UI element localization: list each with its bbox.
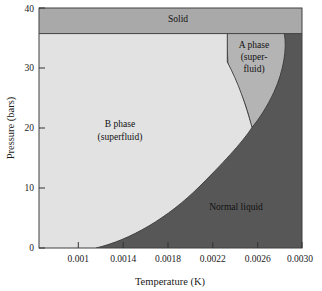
region-label-a-phase-line1: A phase bbox=[239, 40, 269, 50]
region-label-b-phase-line1: B phase bbox=[105, 119, 135, 129]
region-label-a-phase-line2: (super- bbox=[241, 52, 268, 63]
x-axis-tick-labels: 0.001 0.0014 0.0018 0.0022 0.0026 0.0030 bbox=[68, 254, 314, 264]
x-tick-label-5: 0.0026 bbox=[245, 254, 271, 264]
region-label-b-phase-line2: (superfluid) bbox=[98, 132, 143, 143]
x-axis-title: Temperature (K) bbox=[135, 276, 206, 288]
y-axis-tick-labels: 0 10 20 30 40 bbox=[25, 4, 35, 253]
y-axis-title: Pressure (bars) bbox=[5, 96, 17, 159]
y-tick-label-40: 40 bbox=[25, 4, 35, 14]
region-label-normal-liquid: Normal liquid bbox=[209, 202, 263, 212]
phase-diagram-figure: 0 10 20 30 40 0.001 0.0014 0.0018 0.0022… bbox=[0, 0, 322, 291]
y-tick-label-10: 10 bbox=[25, 183, 35, 193]
x-tick-label-1: 0.001 bbox=[68, 254, 90, 264]
region-label-solid: Solid bbox=[168, 14, 188, 24]
x-tick-label-3: 0.0018 bbox=[155, 254, 181, 264]
x-tick-label-6: 0.0030 bbox=[287, 254, 313, 264]
x-tick-label-4: 0.0022 bbox=[200, 254, 226, 264]
phase-diagram-svg: 0 10 20 30 40 0.001 0.0014 0.0018 0.0022… bbox=[0, 0, 322, 291]
region-label-a-phase-line3: fluid) bbox=[243, 64, 264, 75]
y-tick-label-0: 0 bbox=[29, 243, 34, 253]
y-tick-label-30: 30 bbox=[25, 63, 35, 73]
x-tick-label-2: 0.0014 bbox=[110, 254, 136, 264]
y-tick-label-20: 20 bbox=[25, 123, 35, 133]
